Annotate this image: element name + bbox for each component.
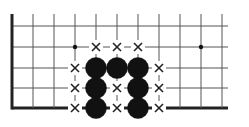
black-stone-icon [86, 98, 107, 119]
x-mark-icon [155, 104, 163, 112]
star-point-icon [73, 45, 77, 49]
x-mark-icon [92, 43, 100, 51]
black-stone-icon [86, 58, 107, 79]
black-stone-icon [128, 78, 149, 99]
x-mark-icon [155, 64, 163, 72]
black-stone-icon [107, 58, 128, 79]
x-mark-icon [113, 104, 121, 112]
x-mark-icon [71, 64, 79, 72]
x-mark-icon [113, 43, 121, 51]
x-mark-icon [71, 84, 79, 92]
x-mark-icon [113, 84, 121, 92]
x-mark-icon [155, 84, 163, 92]
x-mark-icon [134, 43, 142, 51]
x-mark-icon [71, 104, 79, 112]
black-stone-icon [128, 58, 149, 79]
black-stone-icon [128, 98, 149, 119]
black-stone-icon [86, 78, 107, 99]
star-point-icon [199, 45, 203, 49]
go-board-diagram [0, 0, 249, 127]
